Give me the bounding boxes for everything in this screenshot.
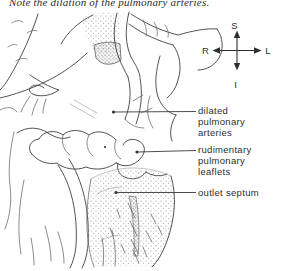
outlet-septum-stipple: [87, 169, 174, 266]
label-dilated-line-1: dilated: [198, 105, 228, 116]
annotation-labels: dilated pulmonary arteries rudimentary p…: [198, 105, 259, 198]
rudimentary-leaflets-knob: [116, 139, 144, 165]
leader-line-dilated-pulmonary-arteries: [112, 110, 196, 113]
outlet-septum-region: [87, 168, 175, 267]
figure-caption: Note the dilation of the pulmonary arter…: [8, 0, 209, 8]
anatomy-drawing: [0, 12, 222, 268]
compass-label-inferior: I: [234, 79, 237, 90]
compass-arrow-down-icon: [234, 63, 240, 71]
anatomy-figure: Note the dilation of the pulmonary arter…: [0, 0, 281, 271]
label-dilated-line-3: arteries: [198, 127, 232, 138]
clamp-structure: [17, 75, 97, 138]
left-heart-border: [0, 14, 87, 229]
orientation-compass: S I R L: [202, 20, 271, 90]
compass-arrow-right-icon: [254, 47, 262, 53]
compass-cross-icon: [213, 31, 262, 71]
central-band: [125, 56, 176, 141]
compass-arrow-left-icon: [213, 47, 221, 53]
figure-page: Note the dilation of the pulmonary arter…: [0, 0, 281, 271]
label-rudimentary-line-3: leaflets: [198, 166, 231, 177]
label-rudimentary-line-2: pulmonary: [198, 155, 245, 166]
compass-label-left: L: [265, 45, 270, 56]
compass-label-right: R: [202, 45, 209, 56]
label-dilated-line-2: pulmonary: [198, 116, 245, 127]
compass-arrow-up-icon: [234, 31, 240, 39]
label-rudimentary-line-1: rudimentary: [198, 144, 251, 155]
compass-label-superior: S: [231, 20, 237, 31]
left-septal-band: [19, 159, 88, 268]
label-outlet-septum: outlet septum: [198, 187, 259, 198]
